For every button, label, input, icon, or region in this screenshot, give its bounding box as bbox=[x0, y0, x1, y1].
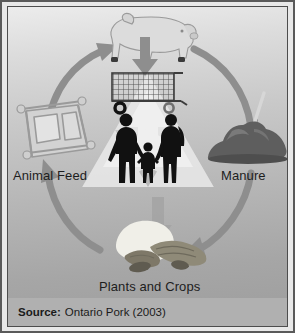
source-text: Ontario Pork (2003) bbox=[65, 306, 166, 318]
label-plants-and-crops: Plants and Crops bbox=[99, 279, 200, 294]
family-silhouette-icon bbox=[105, 112, 191, 184]
illustration-panel: Animal Feed Manure Plants and Crops bbox=[7, 6, 288, 327]
figure-container: Animal Feed Manure Plants and Crops Sour… bbox=[0, 0, 295, 333]
plants-crops-icon bbox=[106, 195, 218, 277]
label-manure: Manure bbox=[221, 168, 266, 183]
source-caption: Source: Ontario Pork (2003) bbox=[7, 298, 288, 327]
label-animal-feed: Animal Feed bbox=[13, 168, 87, 183]
source-label: Source: bbox=[18, 306, 61, 318]
manure-pile-icon bbox=[204, 91, 288, 167]
shopping-cart-icon bbox=[103, 69, 193, 117]
feed-trough-icon bbox=[12, 95, 102, 165]
